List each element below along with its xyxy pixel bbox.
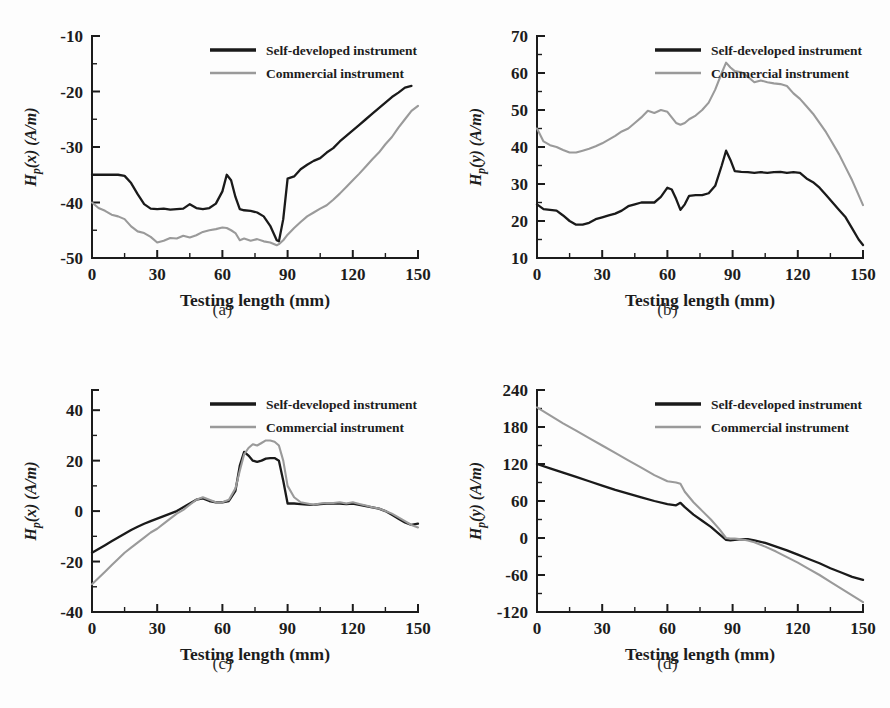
y-tick-label: 70 bbox=[511, 27, 528, 46]
y-tick-label: -120 bbox=[497, 603, 528, 622]
y-axis-title: Hp(x) (A/m) bbox=[22, 461, 43, 541]
x-tick-label: 120 bbox=[785, 265, 811, 284]
x-tick-label: 0 bbox=[533, 265, 542, 284]
subplot-caption-a: (a) bbox=[0, 300, 445, 320]
series-self-developed bbox=[92, 452, 418, 553]
x-tick-label: 60 bbox=[659, 265, 676, 284]
subplot-a: -50-40-30-20-100306090120150Testing leng… bbox=[0, 0, 445, 354]
y-axis-title: Hp(y) (A/m) bbox=[467, 462, 488, 541]
legend-item-commercial-label: Commercial instrument bbox=[711, 66, 850, 81]
x-axis-ticks: 0306090120150 bbox=[88, 604, 431, 638]
x-tick-label: 0 bbox=[88, 619, 97, 638]
series-self-developed bbox=[537, 464, 863, 580]
figure-container: -50-40-30-20-100306090120150Testing leng… bbox=[0, 0, 890, 708]
series-commercial bbox=[92, 106, 418, 245]
svg-text:Hp(y) (A/m): Hp(y) (A/m) bbox=[467, 462, 488, 541]
y-tick-label: 30 bbox=[511, 175, 528, 194]
y-tick-label: 20 bbox=[511, 212, 528, 231]
x-tick-label: 120 bbox=[785, 619, 811, 638]
y-tick-label: 40 bbox=[511, 138, 528, 157]
subplot-caption-d: (d) bbox=[445, 654, 890, 674]
legend: Self-developed instrumentCommercial inst… bbox=[655, 397, 863, 435]
svg-text:Hp(y) (A/m): Hp(y) (A/m) bbox=[467, 108, 488, 187]
x-axis-ticks: 0306090120150 bbox=[88, 250, 431, 284]
y-tick-label: -10 bbox=[60, 27, 83, 46]
x-axis-ticks: 0306090120150 bbox=[533, 250, 876, 284]
y-tick-label: 0 bbox=[520, 529, 529, 548]
x-tick-label: 30 bbox=[149, 619, 166, 638]
y-tick-label: -40 bbox=[60, 194, 83, 213]
legend-item-self-developed-label: Self-developed instrument bbox=[266, 43, 418, 58]
x-tick-label: 0 bbox=[533, 619, 542, 638]
x-tick-label: 150 bbox=[850, 619, 876, 638]
x-tick-label: 150 bbox=[850, 265, 876, 284]
y-tick-label: 240 bbox=[503, 381, 529, 400]
subplot-d: -120-600601201802400306090120150Testing … bbox=[445, 354, 890, 708]
legend-item-commercial-label: Commercial instrument bbox=[266, 420, 405, 435]
x-tick-label: 120 bbox=[340, 265, 366, 284]
subplot-caption-b: (b) bbox=[445, 300, 890, 320]
legend-item-commercial-label: Commercial instrument bbox=[266, 66, 405, 81]
y-tick-label: 0 bbox=[75, 502, 84, 521]
x-tick-label: 90 bbox=[279, 619, 296, 638]
y-tick-label: 120 bbox=[503, 455, 529, 474]
x-tick-label: 90 bbox=[724, 619, 741, 638]
x-tick-label: 90 bbox=[279, 265, 296, 284]
y-axis-ticks: -50-40-30-20-10 bbox=[60, 27, 100, 268]
series-self-developed bbox=[537, 151, 863, 245]
y-tick-label: -50 bbox=[60, 249, 83, 268]
x-tick-label: 150 bbox=[405, 619, 431, 638]
y-tick-label: 40 bbox=[66, 401, 83, 420]
legend-item-self-developed-label: Self-developed instrument bbox=[711, 397, 863, 412]
y-tick-label: 20 bbox=[66, 452, 83, 471]
x-tick-label: 120 bbox=[340, 619, 366, 638]
x-tick-label: 30 bbox=[149, 265, 166, 284]
legend-item-self-developed-label: Self-developed instrument bbox=[266, 397, 418, 412]
x-tick-label: 0 bbox=[88, 265, 97, 284]
legend: Self-developed instrumentCommercial inst… bbox=[210, 43, 418, 81]
subplot-b: 102030405060700306090120150Testing lengt… bbox=[445, 0, 890, 354]
y-axis-ticks: -40-2002040 bbox=[60, 401, 100, 622]
y-tick-label: 60 bbox=[511, 64, 528, 83]
svg-text:Hp(x) (A/m): Hp(x) (A/m) bbox=[22, 107, 43, 187]
y-axis-title: Hp(x) (A/m) bbox=[22, 107, 43, 187]
y-tick-label: 50 bbox=[511, 101, 528, 120]
y-tick-label: -30 bbox=[60, 138, 83, 157]
subplot-caption-c: (c) bbox=[0, 654, 445, 674]
y-axis-ticks: 10203040506070 bbox=[511, 27, 545, 268]
x-tick-label: 30 bbox=[594, 265, 611, 284]
legend-item-self-developed-label: Self-developed instrument bbox=[711, 43, 863, 58]
y-tick-label: 60 bbox=[511, 492, 528, 511]
x-tick-label: 150 bbox=[405, 265, 431, 284]
series-self-developed bbox=[92, 86, 411, 241]
y-tick-label: 180 bbox=[503, 418, 529, 437]
legend: Self-developed instrumentCommercial inst… bbox=[210, 397, 418, 435]
x-tick-label: 90 bbox=[724, 265, 741, 284]
y-tick-label: -60 bbox=[505, 566, 528, 585]
legend-item-commercial-label: Commercial instrument bbox=[711, 420, 850, 435]
svg-text:Hp(x) (A/m): Hp(x) (A/m) bbox=[22, 461, 43, 541]
y-axis-title: Hp(y) (A/m) bbox=[467, 108, 488, 187]
y-tick-label: -20 bbox=[60, 83, 83, 102]
series-commercial bbox=[537, 407, 863, 602]
subplot-c: -40-20020400306090120150Testing length (… bbox=[0, 354, 445, 708]
y-tick-label: -40 bbox=[60, 603, 83, 622]
x-tick-label: 60 bbox=[659, 619, 676, 638]
x-axis-ticks: 0306090120150 bbox=[533, 604, 876, 638]
y-tick-label: -20 bbox=[60, 553, 83, 572]
x-tick-label: 60 bbox=[214, 619, 231, 638]
legend: Self-developed instrumentCommercial inst… bbox=[655, 43, 863, 81]
x-tick-label: 60 bbox=[214, 265, 231, 284]
y-tick-label: 10 bbox=[511, 249, 528, 268]
x-tick-label: 30 bbox=[594, 619, 611, 638]
